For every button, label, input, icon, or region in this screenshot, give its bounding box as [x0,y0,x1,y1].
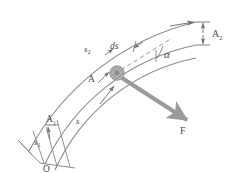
radial-line-A1 [46,127,57,166]
label-origin-O: O [43,164,50,173]
label-ds: ds [110,41,119,51]
point-a-pointer-arrow [98,72,109,83]
radial-line-s-start [57,120,70,167]
label-alpha: α [164,48,170,60]
label-A: A [88,74,95,84]
particle-core [115,71,120,76]
physics-figure-curved-path-work: A2 A1 s2 s1 s A ds α F O [0,0,225,173]
label-A1: A1 [46,114,56,126]
label-F: F [180,125,186,136]
figure-canvas: A2 A1 s2 s1 s A ds α F O [0,0,225,173]
label-s1: s1 [34,137,41,148]
label-s2: s2 [84,44,91,55]
label-A2: A2 [212,28,222,41]
label-s: s [76,116,80,126]
force-vector-arrow [122,78,187,120]
